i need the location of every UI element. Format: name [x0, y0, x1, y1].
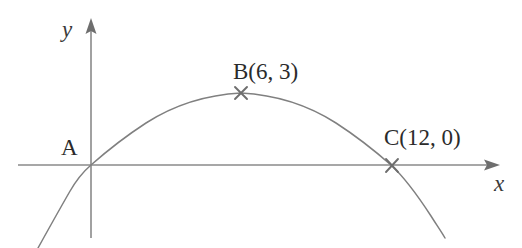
x-axis-label: x [494, 172, 504, 195]
point-label-c: C(12, 0) [384, 126, 461, 149]
parabola-curve [38, 93, 445, 248]
parabola-figure: y x A B(6, 3) C(12, 0) [0, 0, 522, 248]
y-axis-label: y [62, 18, 72, 41]
point-label-b: B(6, 3) [233, 60, 298, 83]
plot-canvas [0, 0, 522, 248]
point-label-a: A [61, 136, 78, 159]
